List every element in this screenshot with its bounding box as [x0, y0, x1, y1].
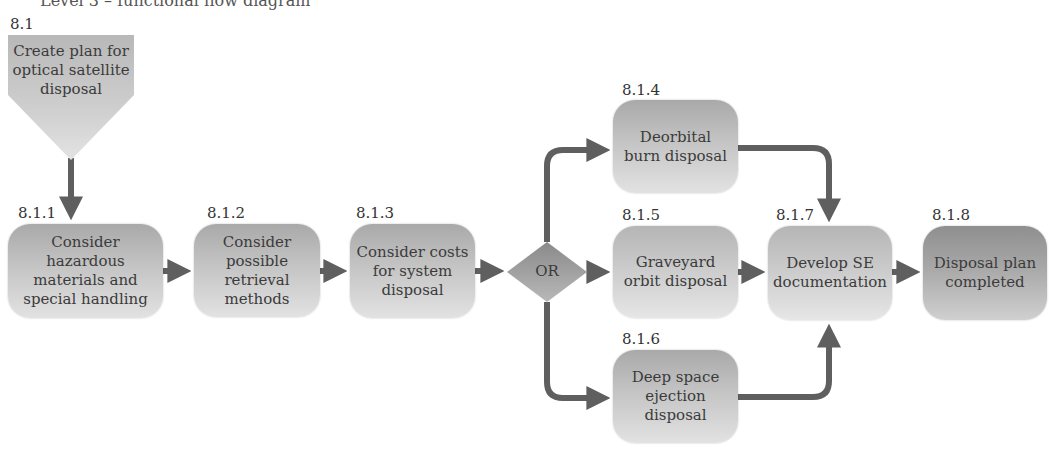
node-label: Develop SE documentation	[770, 254, 890, 292]
node-id-8-1-2: 8.1.2	[207, 206, 245, 221]
node-id-8-1-5: 8.1.5	[622, 208, 660, 223]
start-node-label: Create plan for optical satellite dispos…	[8, 42, 134, 99]
node-label: Consider hazardous materials and special…	[12, 233, 159, 309]
node-label: Disposal plan completed	[929, 254, 1041, 292]
node-id-8-1-8: 8.1.8	[932, 208, 970, 223]
node-id-8-1-1: 8.1.1	[18, 206, 56, 221]
node-label: Deorbital burn disposal	[623, 128, 728, 166]
node-label: Deep space ejection disposal	[627, 368, 724, 425]
or-gate-label: OR	[507, 262, 587, 280]
node-8-1-8[interactable]: Disposal plan completed	[923, 226, 1047, 320]
node-id-8-1: 8.1	[10, 17, 34, 32]
arrow-8-1-6-to-8-1-7	[738, 332, 829, 397]
node-label: Consider costs for system disposal	[354, 243, 471, 300]
node-8-1-2[interactable]: Consider possible retrieval methods	[194, 224, 320, 317]
node-8-1-3[interactable]: Consider costs for system disposal	[350, 224, 475, 318]
node-8-1-6[interactable]: Deep space ejection disposal	[613, 350, 738, 443]
node-id-8-1-3: 8.1.3	[356, 206, 394, 221]
node-id-8-1-4: 8.1.4	[622, 83, 660, 98]
node-id-8-1-7: 8.1.7	[776, 208, 814, 223]
node-label: Graveyard orbit disposal	[623, 253, 728, 291]
arrow-or-to-8-1-6	[547, 302, 602, 398]
flow-connectors	[0, 0, 1049, 450]
arrow-8-1-4-to-8-1-7	[738, 148, 829, 214]
node-label: Consider possible retrieval methods	[216, 233, 298, 309]
node-8-1-1[interactable]: Consider hazardous materials and special…	[8, 224, 163, 318]
node-8-1-5[interactable]: Graveyard orbit disposal	[613, 226, 738, 318]
node-8-1-4[interactable]: Deorbital burn disposal	[613, 100, 738, 193]
node-id-8-1-6: 8.1.6	[622, 332, 660, 347]
arrow-or-to-8-1-4	[547, 150, 602, 242]
node-8-1-7[interactable]: Develop SE documentation	[768, 226, 892, 320]
